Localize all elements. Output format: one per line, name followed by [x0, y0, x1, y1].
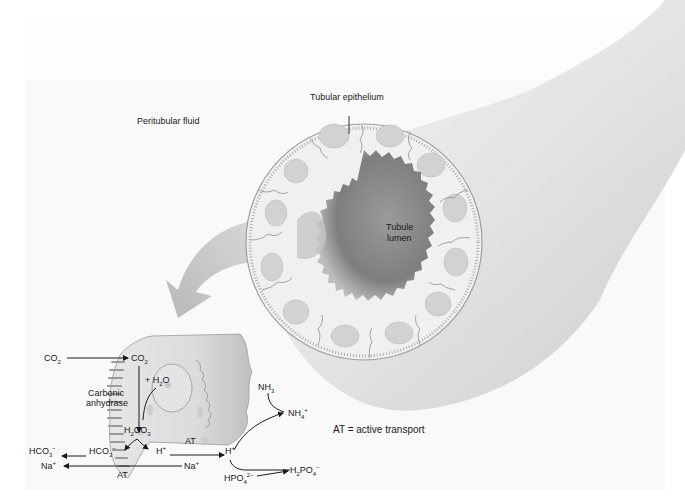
na-lumen-label: Na+ [184, 461, 199, 471]
hpo4-label: HPO42− [224, 473, 254, 483]
carbonic-anhydrase-label-line1: Carbonic [88, 388, 124, 398]
hco3-peritubular-label: HCO3− [29, 446, 56, 456]
tubular-epithelium-label: Tubular epithelium [310, 92, 384, 102]
nh3-label: NH3 [258, 382, 274, 392]
peritubular-fluid-label: Peritubular fluid [137, 116, 200, 126]
tubule-lumen-label-line1: Tubule [386, 222, 413, 232]
tubule-lumen-label-line2: lumen [387, 233, 412, 243]
h-ion-cell-label: H+ [156, 446, 166, 456]
h-ion-lumen-label: H+ [225, 446, 235, 456]
nh4-label: NH4+ [288, 408, 308, 418]
h2co3-label: H2CO3 [124, 425, 151, 435]
plus-h2o-label: + H2O [145, 375, 170, 385]
at-upper-label: AT [185, 436, 196, 446]
h2po4-label: H2PO4− [290, 465, 320, 475]
cell-nucleus [152, 364, 192, 412]
co2-peritubular-label: CO2 [44, 353, 61, 363]
co2-cell-label: CO2 [131, 353, 148, 363]
hco3-cell-label: HCO3− [89, 446, 116, 456]
at-lower-label: AT [117, 470, 128, 480]
legend-active-transport: AT = active transport [333, 425, 425, 435]
carbonic-anhydrase-label-line2: anhydrase [86, 398, 128, 408]
na-peritubular-label: Na+ [41, 461, 56, 471]
